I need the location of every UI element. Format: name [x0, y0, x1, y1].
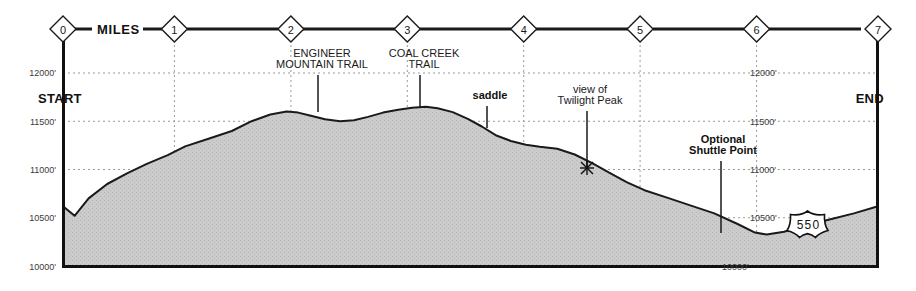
annotation-label: saddle — [473, 89, 508, 101]
annotation-line-2: Shuttle Point — [689, 144, 757, 156]
route-shield-label: 550 — [797, 218, 821, 232]
mile-marker-6[interactable]: 6 — [744, 16, 770, 42]
mile-marker-label: 6 — [754, 24, 760, 36]
y-tick-left-11000: 11000' — [30, 165, 56, 175]
y-tick-right-12000: 12000' — [750, 68, 777, 78]
mile-marker-label: 1 — [171, 24, 177, 36]
mile-marker-5[interactable]: 5 — [627, 16, 653, 42]
mile-marker-label: 4 — [521, 24, 527, 36]
annotation-line-2: MOUNTAIN TRAIL — [276, 58, 368, 70]
y-tick-left-10500: 10500' — [29, 213, 56, 223]
mile-marker-0[interactable]: 0 — [50, 16, 76, 42]
annotation-line-2: TRAIL — [408, 58, 439, 70]
mile-marker-label: 5 — [637, 24, 643, 36]
y-tick-right-11500: 11500' — [750, 117, 776, 127]
y-tick-right-10000: 10000' — [722, 262, 749, 272]
elevation-profile-chart: 12000' 11500' 11000' 10500' 10000' 12000… — [0, 0, 916, 291]
mile-marker-7[interactable]: 7 — [865, 16, 891, 42]
start-label: START — [38, 91, 82, 106]
route-shield-550[interactable]: 550 — [787, 211, 828, 238]
mile-marker-label: 0 — [60, 24, 66, 36]
mile-marker-label: 2 — [288, 24, 294, 36]
mile-marker-3[interactable]: 3 — [394, 16, 420, 42]
mile-marker-label: 3 — [404, 24, 410, 36]
mile-marker-1[interactable]: 1 — [161, 16, 187, 42]
y-tick-right-10500: 10500' — [750, 213, 777, 223]
y-tick-left-12000: 12000' — [29, 68, 56, 78]
mile-marker-4[interactable]: 4 — [511, 16, 537, 42]
y-tick-left-10000: 10000' — [29, 262, 56, 272]
miles-axis-label: MILES — [97, 22, 140, 37]
annotation-line-2: Twilight Peak — [558, 94, 623, 106]
mile-marker-label: 7 — [875, 24, 881, 36]
y-tick-right-11000: 11000' — [750, 165, 776, 175]
y-tick-left-11500: 11500' — [30, 117, 56, 127]
mile-marker-2[interactable]: 2 — [278, 16, 304, 42]
end-label: END — [856, 91, 884, 106]
viewpoint-x-marker — [580, 161, 594, 175]
